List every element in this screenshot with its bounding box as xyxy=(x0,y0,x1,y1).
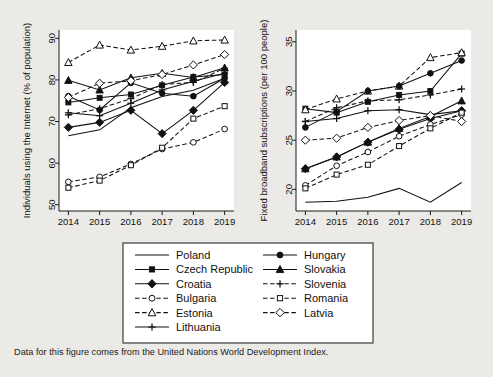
x-tick-label: 2016 xyxy=(120,216,141,227)
marker-square-o xyxy=(303,186,308,191)
legend-label: Romania xyxy=(304,292,349,304)
legend-label: Croatia xyxy=(176,278,212,290)
legend-label: Slovakia xyxy=(304,263,346,275)
marker-circle-o xyxy=(334,163,340,169)
x-tick-label: 2017 xyxy=(389,216,410,227)
marker-circle-o xyxy=(365,149,371,155)
chart-legend: PolandCzech RepublicCroatiaBulgariaEston… xyxy=(123,243,373,343)
marker-circle-o xyxy=(149,295,155,301)
marker-circle-o xyxy=(66,179,72,185)
marker-square-o xyxy=(128,163,133,168)
chart-figure: 5060708090201420152016201720182019Indivi… xyxy=(0,0,493,377)
legend-label: Slovenia xyxy=(304,278,347,290)
x-tick-label: 2018 xyxy=(420,216,441,227)
figure-caption: Data for this figure comes from the Unit… xyxy=(14,347,328,357)
marker-square-o xyxy=(97,178,102,183)
legend-label: Poland xyxy=(176,249,210,261)
legend-label: Latvia xyxy=(304,307,334,319)
marker-square-o xyxy=(397,144,402,149)
marker-circle xyxy=(277,252,283,258)
marker-circle xyxy=(159,90,165,96)
y-tick-label: 80 xyxy=(47,75,58,86)
y-tick-label: 35 xyxy=(284,37,295,48)
marker-square-o xyxy=(222,104,227,109)
y-axis-title: Fixed broadband subscriptions (per 100 p… xyxy=(258,20,269,222)
x-tick-label: 2017 xyxy=(152,216,173,227)
y-tick-label: 25 xyxy=(284,135,295,146)
marker-circle xyxy=(191,93,197,99)
marker-square xyxy=(149,267,154,272)
x-tick-label: 2014 xyxy=(58,216,79,227)
marker-square-o xyxy=(459,110,464,115)
y-tick-label: 30 xyxy=(284,86,295,97)
legend-label: Hungary xyxy=(304,249,346,261)
marker-square-o xyxy=(277,296,282,301)
y-tick-label: 20 xyxy=(284,184,295,195)
marker-circle xyxy=(365,88,371,94)
legend-label: Lithuania xyxy=(176,321,222,333)
figure-root: 5060708090201420152016201720182019Indivi… xyxy=(0,0,493,377)
plot-background xyxy=(296,30,471,211)
marker-square-o xyxy=(160,145,165,150)
panel-broadband: 20253035201420152016201720182019Fixed br… xyxy=(258,20,472,227)
x-tick-label: 2015 xyxy=(89,216,110,227)
y-axis-title: Individuals using the Internet (% of pop… xyxy=(21,23,32,218)
x-tick-label: 2016 xyxy=(357,216,378,227)
marker-circle-o xyxy=(396,133,402,139)
marker-circle xyxy=(396,83,402,89)
panel-internet: 5060708090201420152016201720182019Indivi… xyxy=(21,23,235,227)
marker-square-o xyxy=(365,162,370,167)
y-tick-label: 70 xyxy=(47,116,58,127)
x-tick-label: 2014 xyxy=(295,216,316,227)
legend-label: Bulgaria xyxy=(176,292,217,304)
marker-square-o xyxy=(334,172,339,177)
marker-circle xyxy=(428,70,434,76)
marker-square-o xyxy=(191,116,196,121)
x-tick-label: 2019 xyxy=(214,216,235,227)
x-tick-label: 2018 xyxy=(183,216,204,227)
x-tick-label: 2015 xyxy=(326,216,347,227)
marker-circle-o xyxy=(191,139,197,145)
legend-label: Czech Republic xyxy=(176,263,254,275)
marker-circle xyxy=(303,125,309,131)
x-tick-label: 2019 xyxy=(451,216,472,227)
y-tick-label: 90 xyxy=(47,33,58,44)
marker-square xyxy=(97,95,102,100)
y-tick-label: 50 xyxy=(47,199,58,210)
marker-circle xyxy=(459,58,465,64)
marker-circle xyxy=(222,75,228,81)
legend-label: Estonia xyxy=(176,307,214,319)
marker-square-o xyxy=(66,185,71,190)
marker-circle-o xyxy=(222,126,228,132)
y-tick-label: 60 xyxy=(47,158,58,169)
marker-square-o xyxy=(428,126,433,131)
